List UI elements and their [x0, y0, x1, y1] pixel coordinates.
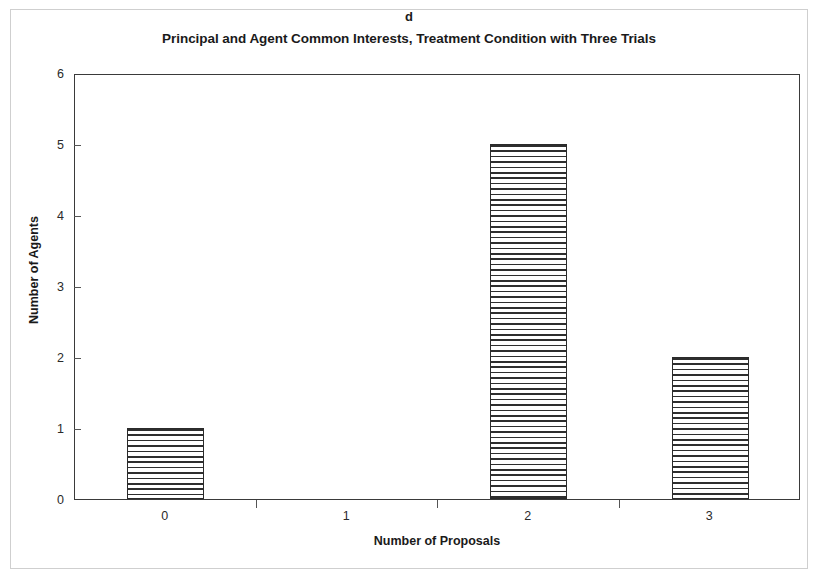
y-tick-3	[74, 287, 81, 288]
y-tick-label-0: 0	[34, 493, 64, 507]
y-tick-label-6: 6	[34, 67, 64, 81]
y-tick-label-3: 3	[34, 280, 64, 294]
y-tick-2	[74, 358, 81, 359]
bar-2	[490, 144, 567, 499]
plot-area	[74, 74, 800, 500]
chart-figure: d Principal and Agent Common Interests, …	[0, 0, 818, 582]
y-tick-1	[74, 429, 81, 430]
y-tick-4	[74, 216, 81, 217]
y-tick-label-1: 1	[34, 422, 64, 436]
y-tick-label-5: 5	[34, 138, 64, 152]
x-tick-label-3: 3	[664, 508, 754, 524]
y-tick-5	[74, 145, 81, 146]
x-tick-label-1: 1	[301, 508, 391, 524]
x-tick-1	[256, 500, 257, 508]
y-tick-label-4: 4	[34, 209, 64, 223]
x-tick-3	[619, 500, 620, 508]
x-tick-2	[437, 500, 438, 508]
panel-letter: d	[0, 9, 818, 25]
x-axis-label: Number of Proposals	[74, 534, 800, 548]
bar-0	[127, 428, 204, 499]
bar-3	[672, 357, 749, 499]
y-tick-label-2: 2	[34, 351, 64, 365]
chart-title: Principal and Agent Common Interests, Tr…	[0, 30, 818, 47]
x-tick-label-0: 0	[120, 508, 210, 524]
bars-layer	[75, 75, 799, 499]
x-tick-label-2: 2	[483, 508, 573, 524]
